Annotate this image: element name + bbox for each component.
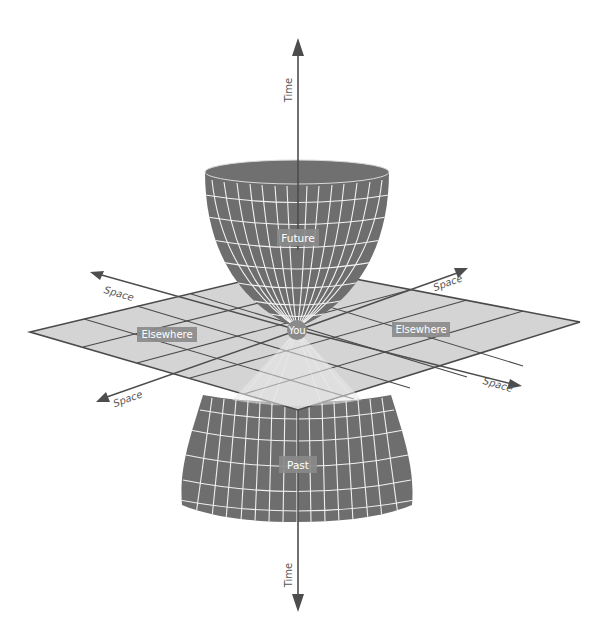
space-label-upper-right: Space bbox=[432, 272, 464, 293]
arrow-left-icon bbox=[90, 271, 104, 280]
time-label-down: Time bbox=[283, 563, 294, 588]
you-marker: You bbox=[287, 320, 307, 340]
svg-text:Elsewhere: Elsewhere bbox=[395, 324, 446, 335]
arrow-down-left-icon bbox=[96, 392, 110, 402]
arrow-up-icon bbox=[292, 38, 304, 56]
space-label-upper-left: Space bbox=[103, 284, 135, 303]
arrow-down-icon bbox=[292, 594, 304, 612]
elsewhere-right-label: Elsewhere bbox=[392, 322, 450, 337]
past-label: Past bbox=[279, 456, 317, 473]
svg-text:Elsewhere: Elsewhere bbox=[141, 329, 192, 340]
space-label-lower-left: Space bbox=[112, 388, 144, 409]
svg-text:You: You bbox=[287, 325, 305, 336]
space-label-lower-right: Space bbox=[482, 375, 514, 394]
svg-text:Future: Future bbox=[281, 232, 314, 244]
light-cone-diagram: Past bbox=[0, 0, 589, 636]
svg-text:Past: Past bbox=[287, 459, 309, 471]
elsewhere-left-label: Elsewhere bbox=[137, 327, 197, 342]
time-label-up: Time bbox=[283, 78, 294, 103]
future-label: Future bbox=[277, 229, 319, 246]
